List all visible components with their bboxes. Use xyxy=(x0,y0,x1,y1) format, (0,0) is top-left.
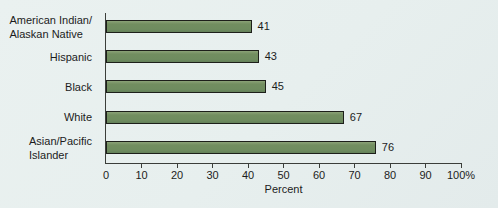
x-tick-label: 50 xyxy=(277,170,289,181)
category-label: Hispanic xyxy=(0,41,99,73)
x-tick xyxy=(177,163,178,168)
bar-value-label: 67 xyxy=(350,111,362,124)
bar xyxy=(106,20,252,33)
x-tick-label: 20 xyxy=(171,170,183,181)
bar-value-label: 45 xyxy=(272,80,284,93)
category-label-text: Hispanic xyxy=(50,50,92,64)
bar xyxy=(106,80,266,93)
category-label-text: Black xyxy=(65,80,92,94)
bar xyxy=(106,141,376,154)
x-tick-label: 60 xyxy=(313,170,325,181)
x-tick xyxy=(354,163,355,168)
x-tick xyxy=(212,163,213,168)
x-tick-label: 70 xyxy=(348,170,360,181)
bar-value-label: 76 xyxy=(382,141,394,154)
category-label: Asian/PacificIslander xyxy=(0,132,99,164)
x-tick-label: 30 xyxy=(206,170,218,181)
x-tick xyxy=(390,163,391,168)
x-tick xyxy=(141,163,142,168)
plot-area: Percent 41434567760102030405060708090100… xyxy=(105,13,461,164)
category-label: Black xyxy=(0,71,99,103)
x-tick-label: 80 xyxy=(384,170,396,181)
x-tick xyxy=(319,163,320,168)
x-tick xyxy=(461,163,462,168)
category-label-text: White xyxy=(64,110,92,124)
bar-value-label: 41 xyxy=(258,20,270,33)
bar-chart-figure: Percent 41434567760102030405060708090100… xyxy=(0,0,498,208)
x-tick-label: 100% xyxy=(447,170,475,181)
category-label: White xyxy=(0,101,99,133)
bar xyxy=(106,50,259,63)
bar xyxy=(106,111,344,124)
x-tick-label: 0 xyxy=(103,170,109,181)
x-tick-label: 10 xyxy=(135,170,147,181)
x-tick-label: 40 xyxy=(242,170,254,181)
category-label-text: Asian/PacificIslander xyxy=(29,134,92,162)
x-axis-title: Percent xyxy=(265,184,303,195)
x-tick xyxy=(425,163,426,168)
x-tick xyxy=(248,163,249,168)
x-tick xyxy=(283,163,284,168)
category-label: American Indian/Alaskan Native xyxy=(0,11,99,43)
category-label-text: American Indian/Alaskan Native xyxy=(9,13,92,41)
bar-value-label: 43 xyxy=(265,50,277,63)
x-tick-label: 90 xyxy=(419,170,431,181)
